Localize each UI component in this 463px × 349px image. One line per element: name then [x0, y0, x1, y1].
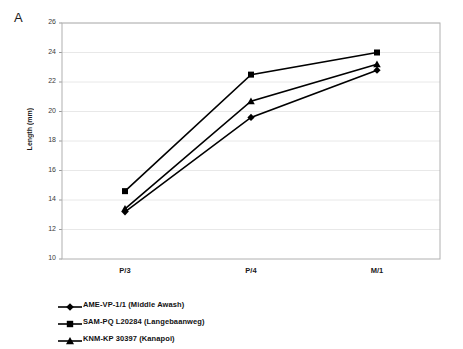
data-point-marker — [122, 188, 128, 194]
legend-item: SAM-PQ L20284 (Langebaanweg) — [57, 313, 357, 330]
data-point-marker — [373, 61, 381, 68]
figure-panel: A Length (mm) 101214161820222426 P/3P/4M… — [0, 0, 463, 349]
data-point-marker — [374, 50, 380, 56]
y-tick-label: 16 — [34, 166, 56, 173]
data-point-marker — [248, 72, 254, 78]
legend-marker-square-icon — [57, 316, 83, 328]
x-tick-label: P/3 — [95, 266, 155, 275]
y-tick-label: 24 — [34, 48, 56, 55]
series-line — [125, 64, 377, 209]
y-tick-label: 12 — [34, 225, 56, 232]
legend-label: SAM-PQ L20284 (Langebaanweg) — [83, 317, 205, 326]
legend-marker-diamond-icon — [57, 299, 83, 311]
y-tick-label: 22 — [34, 77, 56, 84]
legend-item: AME-VP-1/1 (Middle Awash) — [57, 296, 357, 313]
chart-legend: AME-VP-1/1 (Middle Awash)SAM-PQ L20284 (… — [57, 296, 357, 347]
legend-marker-triangle-icon — [57, 333, 83, 345]
data-point-marker — [373, 67, 380, 74]
y-tick-label: 20 — [34, 107, 56, 114]
legend-label: KNM-KP 30397 (Kanapoi) — [83, 334, 175, 343]
y-tick-label: 14 — [34, 195, 56, 202]
y-tick-label: 10 — [34, 254, 56, 261]
gridlines — [59, 23, 440, 259]
chart-series — [122, 50, 380, 195]
legend-item: KNM-KP 30397 (Kanapoi) — [57, 330, 357, 347]
legend-label: AME-VP-1/1 (Middle Awash) — [83, 300, 184, 309]
x-tick-label: P/4 — [221, 266, 281, 275]
series-layer — [121, 50, 381, 216]
y-tick-label: 26 — [34, 18, 56, 25]
y-tick-label: 18 — [34, 136, 56, 143]
x-tick-label: M/1 — [347, 266, 407, 275]
